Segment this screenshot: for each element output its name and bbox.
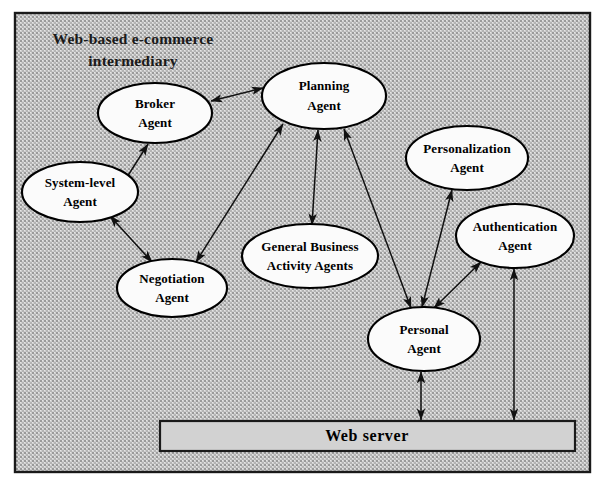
planning-agent-label-line1: Planning: [299, 78, 350, 93]
title-line-1: Web-based e-commerce: [53, 30, 214, 47]
personalization-agent-ellipse[interactable]: [406, 126, 528, 190]
system-level-agent-label-line1: System-level: [45, 175, 116, 190]
node-system-level-agent[interactable]: System-level Agent: [22, 162, 138, 222]
node-personalization-agent[interactable]: Personalization Agent: [406, 126, 528, 190]
general-business-activity-agents-ellipse[interactable]: [242, 224, 378, 288]
planning-agent-ellipse[interactable]: [262, 63, 386, 129]
node-authentication-agent[interactable]: Authentication Agent: [456, 204, 574, 268]
authentication-agent-ellipse[interactable]: [456, 204, 574, 268]
negotiation-agent-ellipse[interactable]: [117, 259, 227, 317]
authentication-agent-label-line1: Authentication: [473, 219, 558, 234]
personalization-agent-label-line1: Personalization: [423, 141, 511, 156]
node-planning-agent[interactable]: Planning Agent: [262, 63, 386, 129]
broker-agent-ellipse[interactable]: [98, 83, 212, 143]
planning-agent-label-line2: Agent: [307, 98, 341, 113]
title-line-2: intermediary: [88, 52, 177, 69]
personal-agent-label-line1: Personal: [399, 322, 448, 337]
node-general-business-activity-agents[interactable]: General Business Activity Agents: [242, 224, 378, 288]
node-web-server[interactable]: Web server: [160, 421, 575, 451]
personal-agent-ellipse[interactable]: [368, 307, 480, 371]
negotiation-agent-label-line1: Negotiation: [139, 271, 205, 286]
web-server-label: Web server: [325, 427, 409, 444]
personalization-agent-label-line2: Agent: [450, 160, 484, 175]
authentication-agent-label-line2: Agent: [498, 238, 532, 253]
broker-agent-label-line2: Agent: [138, 115, 172, 130]
general-business-label-line2: Activity Agents: [267, 258, 353, 273]
node-negotiation-agent[interactable]: Negotiation Agent: [117, 259, 227, 317]
system-level-agent-label-line2: Agent: [63, 194, 97, 209]
negotiation-agent-label-line2: Agent: [155, 290, 189, 305]
node-personal-agent[interactable]: Personal Agent: [368, 307, 480, 371]
general-business-label-line1: General Business: [261, 239, 358, 254]
personal-agent-label-line2: Agent: [407, 341, 441, 356]
broker-agent-label-line1: Broker: [135, 96, 175, 111]
system-level-agent-ellipse[interactable]: [22, 162, 138, 222]
diagram-canvas: Web-based e-commerce intermediary: [0, 0, 609, 490]
agent-architecture-diagram: Web-based e-commerce intermediary: [0, 0, 609, 490]
node-broker-agent[interactable]: Broker Agent: [98, 83, 212, 143]
